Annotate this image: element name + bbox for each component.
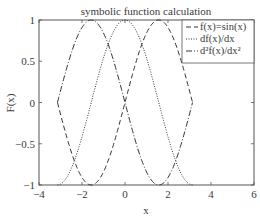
x-tick-label: 0 xyxy=(122,188,128,200)
legend-label: df(x)/dx xyxy=(200,33,235,45)
y-tick-label: 0 xyxy=(30,97,36,109)
series-line xyxy=(57,20,192,185)
series-lines xyxy=(57,20,192,185)
x-tick-label: 2 xyxy=(165,188,171,200)
chart-title: symbolic function calculation xyxy=(81,5,212,17)
series-line xyxy=(57,20,192,185)
x-tick-label: −2 xyxy=(76,188,88,200)
legend: f(x)=sin(x)df(x)/dxd²f(x)/dx² xyxy=(182,20,254,63)
y-tick-label: −0.5 xyxy=(15,138,35,150)
x-tick-label: 6 xyxy=(251,188,257,200)
y-tick-label: −1 xyxy=(23,179,35,191)
series-line xyxy=(57,20,192,185)
legend-label: d²f(x)/dx² xyxy=(200,45,241,57)
x-axis-label: x xyxy=(143,204,149,216)
legend-label: f(x)=sin(x) xyxy=(200,21,247,33)
y-tick-label: 1 xyxy=(30,14,36,26)
x-tick-label: 4 xyxy=(208,188,214,200)
y-axis-label: F(x) xyxy=(4,93,17,112)
chart: symbolic function calculation −4−20246 −… xyxy=(0,0,260,219)
y-tick-label: 0.5 xyxy=(21,55,35,67)
